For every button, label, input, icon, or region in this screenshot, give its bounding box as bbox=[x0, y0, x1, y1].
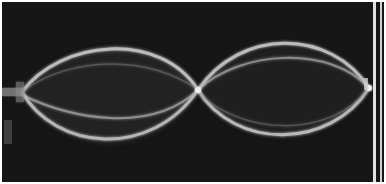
vibrating-string-illustration bbox=[2, 2, 384, 182]
left-loop bbox=[22, 48, 198, 143]
right-loop bbox=[198, 43, 369, 136]
standing-wave-photo: Photograph of a vibrating string showing… bbox=[0, 0, 386, 184]
photo-dark-background: Photograph of a vibrating string showing… bbox=[2, 2, 384, 182]
left-clamp bbox=[2, 82, 24, 144]
middle-node bbox=[195, 87, 201, 93]
